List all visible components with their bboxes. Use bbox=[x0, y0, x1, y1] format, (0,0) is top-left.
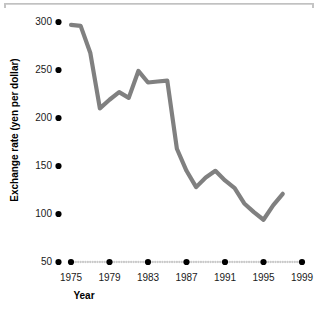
y-axis-dot bbox=[55, 211, 61, 217]
x-axis-minor-dot bbox=[229, 261, 231, 263]
x-tick-label: 1983 bbox=[131, 272, 165, 283]
x-axis-minor-dot bbox=[89, 261, 91, 263]
x-axis-minor-dot bbox=[284, 261, 286, 263]
x-axis-minor-dot bbox=[217, 261, 219, 263]
x-axis-minor-dot bbox=[120, 261, 122, 263]
x-axis-minor-dot bbox=[176, 261, 178, 263]
x-axis-minor-dot bbox=[243, 261, 245, 263]
y-tick-label: 100 bbox=[22, 208, 52, 219]
x-axis-minor-dot bbox=[92, 261, 94, 263]
y-tick-label: 300 bbox=[22, 16, 52, 27]
x-axis-minor-dot bbox=[132, 261, 134, 263]
x-axis-minor-dot bbox=[246, 261, 248, 263]
x-axis-minor-dot bbox=[209, 261, 211, 263]
x-axis-minor-dot bbox=[125, 261, 127, 263]
x-axis-title-text: Year bbox=[58, 290, 110, 301]
x-axis-major-dot bbox=[68, 259, 74, 265]
x-axis-minor-dot bbox=[274, 261, 276, 263]
x-axis-minor-dot bbox=[279, 261, 281, 263]
x-axis-minor-dot bbox=[193, 261, 195, 263]
x-tick-label: 1999 bbox=[285, 272, 318, 283]
x-axis-minor-dot bbox=[101, 261, 103, 263]
x-axis-minor-dot bbox=[156, 261, 158, 263]
y-axis-dot bbox=[55, 163, 61, 169]
x-axis-minor-dot bbox=[140, 261, 142, 263]
y-tick-label: 50 bbox=[22, 256, 52, 267]
x-axis-minor-dot bbox=[197, 261, 199, 263]
x-axis-minor-dot bbox=[233, 261, 235, 263]
x-axis-minor-dot bbox=[214, 261, 216, 263]
x-axis-minor-dot bbox=[202, 261, 204, 263]
x-axis-minor-dot bbox=[212, 261, 214, 263]
x-tick-label: 1987 bbox=[170, 272, 204, 283]
x-axis-minor-dot bbox=[277, 261, 279, 263]
line-plot bbox=[0, 0, 318, 316]
x-tick-label: 1975 bbox=[54, 272, 88, 283]
x-axis-minor-dot bbox=[169, 261, 171, 263]
x-axis-minor-dot bbox=[164, 261, 166, 263]
x-axis-minor-dot bbox=[207, 261, 209, 263]
y-axis-dot bbox=[55, 19, 61, 25]
x-axis-minor-dot bbox=[255, 261, 257, 263]
x-axis-major-dot bbox=[183, 259, 189, 265]
y-axis-title: Exchange rate (yen per dollar) bbox=[9, 55, 25, 205]
x-axis-minor-dot bbox=[296, 261, 298, 263]
x-axis-minor-dot bbox=[154, 261, 156, 263]
x-axis-minor-dot bbox=[195, 261, 197, 263]
x-axis-minor-dot bbox=[286, 261, 288, 263]
x-axis-minor-dot bbox=[258, 261, 260, 263]
x-axis-minor-dot bbox=[236, 261, 238, 263]
x-axis-minor-dot bbox=[96, 261, 98, 263]
x-axis-minor-dot bbox=[294, 261, 296, 263]
x-axis-minor-dot bbox=[250, 261, 252, 263]
y-tick-label: 200 bbox=[22, 112, 52, 123]
x-axis-minor-dot bbox=[113, 261, 115, 263]
x-axis-minor-dot bbox=[270, 261, 272, 263]
x-axis-minor-dot bbox=[79, 261, 81, 263]
y-axis-dot bbox=[55, 67, 61, 73]
y-tick-label: 150 bbox=[22, 160, 52, 171]
x-axis-minor-dot bbox=[241, 261, 243, 263]
x-axis-minor-dot bbox=[152, 261, 154, 263]
x-axis-minor-dot bbox=[181, 261, 183, 263]
x-axis-minor-dot bbox=[116, 261, 118, 263]
x-axis-minor-dot bbox=[272, 261, 274, 263]
x-axis-minor-dot bbox=[77, 261, 79, 263]
y-tick-label: 250 bbox=[22, 64, 52, 75]
x-tick-label: 1995 bbox=[247, 272, 281, 283]
x-axis-minor-dot bbox=[142, 261, 144, 263]
x-axis-minor-dot bbox=[159, 261, 161, 263]
x-tick-label: 1991 bbox=[208, 272, 242, 283]
x-axis-minor-dot bbox=[231, 261, 233, 263]
x-axis-minor-dot bbox=[282, 261, 284, 263]
y-axis-dot bbox=[55, 115, 61, 121]
x-axis-minor-dot bbox=[291, 261, 293, 263]
x-axis-minor-dot bbox=[161, 261, 163, 263]
x-axis-minor-dot bbox=[137, 261, 139, 263]
x-axis-minor-dot bbox=[104, 261, 106, 263]
x-axis-minor-dot bbox=[173, 261, 175, 263]
x-axis-minor-dot bbox=[99, 261, 101, 263]
x-axis-minor-dot bbox=[289, 261, 291, 263]
x-axis-minor-dot bbox=[75, 261, 77, 263]
x-axis-minor-dot bbox=[128, 261, 130, 263]
x-axis-minor-dot bbox=[253, 261, 255, 263]
x-axis-minor-dot bbox=[118, 261, 120, 263]
x-axis-major-dot bbox=[222, 259, 228, 265]
x-axis-minor-dot bbox=[123, 261, 125, 263]
x-axis-minor-dot bbox=[248, 261, 250, 263]
x-axis-minor-dot bbox=[200, 261, 202, 263]
x-axis-minor-dot bbox=[238, 261, 240, 263]
x-axis-minor-dot bbox=[84, 261, 86, 263]
y-axis-marker-dots bbox=[55, 19, 61, 265]
x-axis-minor-dot bbox=[190, 261, 192, 263]
x-axis-minor-dot bbox=[82, 261, 84, 263]
exchange-rate-line bbox=[71, 25, 283, 220]
x-axis-minor-dot bbox=[205, 261, 207, 263]
x-tick-label: 1979 bbox=[93, 272, 127, 283]
x-axis-major-dot bbox=[145, 259, 151, 265]
x-axis-minor-dot bbox=[178, 261, 180, 263]
x-axis-major-dot bbox=[299, 259, 305, 265]
x-axis-minor-dot bbox=[171, 261, 173, 263]
x-axis-minor-dot bbox=[135, 261, 137, 263]
